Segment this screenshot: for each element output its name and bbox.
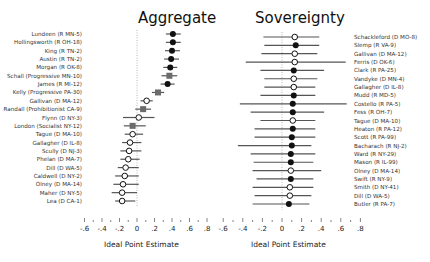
row-label: Olney (D MA-14) xyxy=(354,168,400,175)
row-label: Lea (D CA-1) xyxy=(47,198,82,204)
x-tick-label: .6 xyxy=(337,225,344,233)
filled-circle-marker xyxy=(165,81,171,87)
data-row: Tague (D MA-10) xyxy=(260,118,400,125)
data-row: Mason (R IL-99) xyxy=(254,159,398,165)
row-label: Caldwell (D NY-2) xyxy=(34,173,82,179)
row-label: Scott (R PA-99) xyxy=(354,134,396,140)
row-label: Dill (D WA-5) xyxy=(46,165,82,171)
data-row: Austin (R TN-2) xyxy=(39,56,179,62)
data-row: Slemp (R VA-9) xyxy=(264,42,396,49)
row-label: Fess (R OH-7) xyxy=(354,109,392,115)
data-row: Lundeen (R MN-5) xyxy=(32,31,181,37)
row-label: Olney (D MA-14) xyxy=(36,181,82,188)
data-row: Dill (D WA-5) xyxy=(255,193,390,199)
open-circle-marker xyxy=(136,115,142,121)
x-tick-label: -.4 xyxy=(238,225,248,233)
data-row: Dill (D WA-5) xyxy=(46,165,138,171)
data-row: Gallivan (D MA-12) xyxy=(29,98,152,104)
x-tick-label: 0 xyxy=(135,225,139,233)
data-row: Butler (R PA-7) xyxy=(253,201,395,207)
row-label: Vandyke (D MN-4) xyxy=(354,76,405,83)
row-label: Gallagher (D IL-8) xyxy=(354,84,404,91)
aggregate-panel: Aggregate Lundeen (R MN-5)Hollingsworth … xyxy=(4,9,217,249)
square-marker xyxy=(140,106,146,112)
row-label: Heaton (R PA-12) xyxy=(354,126,402,132)
row-label: Maher (D NY-5) xyxy=(40,190,82,196)
open-circle-marker xyxy=(127,140,133,146)
row-label: Dill (D WA-5) xyxy=(354,193,390,199)
filled-circle-marker xyxy=(288,159,294,165)
row-label: Clark (R PA-25) xyxy=(354,67,396,73)
row-label: James (R MI-12) xyxy=(37,81,82,88)
data-row: London (Socialist NY-12) xyxy=(14,123,146,129)
data-row: Maher (D NY-5) xyxy=(40,190,137,196)
x-tick-label: -.6 xyxy=(80,225,90,233)
data-row: Kelly (Progressive PA-30) xyxy=(13,89,164,96)
data-row: Randall (Prohibitionist CA-9) xyxy=(4,106,151,112)
x-tick-label: .4 xyxy=(318,225,325,233)
row-label: Butler (R PA-7) xyxy=(354,201,395,207)
data-row: Gallagher (D IL-8) xyxy=(32,140,141,147)
square-marker xyxy=(166,73,172,79)
row-label: Flynn (D NY-3) xyxy=(42,115,82,122)
x-tick-label: .6 xyxy=(186,225,193,233)
sovereignty-title: Sovereignty xyxy=(255,9,345,27)
data-row: Ferris (D OK-6) xyxy=(246,59,395,65)
row-label: Bacharach (R NJ-2) xyxy=(354,143,407,150)
data-row: King (R TN-2) xyxy=(45,48,180,55)
data-row: Smith (D NY-41) xyxy=(253,184,399,190)
filled-circle-marker xyxy=(290,101,296,107)
filled-circle-marker xyxy=(288,176,294,182)
sovereignty-x-axis: -.6-.4-.20.2.4.6.8 xyxy=(219,218,364,233)
open-circle-marker xyxy=(120,182,126,188)
row-label: Scully (D NJ-3) xyxy=(42,148,82,155)
row-label: Austin (R TN-2) xyxy=(39,56,82,62)
open-circle-marker xyxy=(130,131,136,137)
x-tick-label: -.2 xyxy=(115,225,124,233)
aggregate-title: Aggregate xyxy=(138,9,216,27)
aggregate-x-label: Ideal Point Estimate xyxy=(104,240,179,249)
row-label: Costello (R PA-5) xyxy=(354,101,401,107)
data-row: Fess (R OH-7) xyxy=(251,109,393,115)
data-row: Hollingsworth (R OH-18) xyxy=(14,39,181,46)
data-row: Schackleford (D MO-8) xyxy=(263,34,417,40)
open-circle-marker xyxy=(119,190,125,196)
open-circle-marker xyxy=(292,34,298,40)
row-label: Slemp (R VA-9) xyxy=(354,42,396,49)
filled-circle-marker xyxy=(289,134,295,140)
data-row: Clark (R PA-25) xyxy=(260,67,396,73)
data-row: Lea (D CA-1) xyxy=(47,198,136,204)
row-label: Tague (D MA-10) xyxy=(35,131,82,138)
open-circle-marker xyxy=(287,193,293,199)
open-circle-marker xyxy=(292,59,298,65)
filled-circle-marker xyxy=(289,143,295,149)
row-label: Schall (Progressive MN-10) xyxy=(7,73,82,80)
x-tick-label: .8 xyxy=(357,225,364,233)
aggregate-x-axis: -.6-.4-.20.2.4.6.8 xyxy=(80,218,210,233)
row-label: Phelan (D MA-7) xyxy=(37,156,82,162)
data-row: Phelan (D MA-7) xyxy=(37,156,140,162)
row-label: Smith (D NY-41) xyxy=(354,184,399,190)
filled-circle-marker xyxy=(170,39,176,45)
filled-circle-marker xyxy=(291,67,297,73)
data-row: Costello (R PA-5) xyxy=(240,101,401,107)
dot-whisker-figure: Aggregate Lundeen (R MN-5)Hollingsworth … xyxy=(0,0,430,262)
row-label: Gallivan (D MA-12) xyxy=(354,51,407,57)
data-row: Morgan (R OK-8) xyxy=(36,64,177,71)
data-row: Vandyke (D MN-4) xyxy=(264,76,404,83)
data-row: Scott (R PA-99) xyxy=(255,134,397,140)
row-label: Gallagher (D IL-8) xyxy=(32,140,82,147)
data-row: Bacharach (R NJ-2) xyxy=(238,143,407,150)
data-row: James (R MI-12) xyxy=(37,81,175,88)
open-circle-marker xyxy=(291,76,297,82)
row-label: Hollingsworth (R OH-18) xyxy=(14,39,82,46)
square-marker xyxy=(130,123,136,129)
row-label: Mason (R IL-99) xyxy=(354,159,398,165)
row-label: Swift (R NY-9) xyxy=(354,176,392,182)
data-row: Tague (D MA-10) xyxy=(35,131,143,138)
data-row: Ward (R NY-29) xyxy=(251,151,397,157)
data-row: Caldwell (D NY-2) xyxy=(34,173,139,179)
row-label: Schackleford (D MO-8) xyxy=(354,34,417,40)
x-tick-label: -.2 xyxy=(258,225,267,233)
open-circle-marker xyxy=(125,156,131,162)
